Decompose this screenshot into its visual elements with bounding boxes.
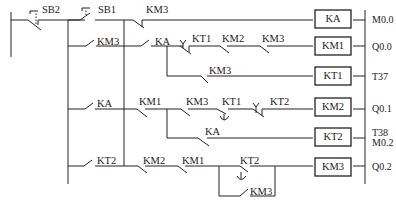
label-kt2-r6b: KT2 [240,156,259,167]
label-km3-r2b: KM3 [262,34,284,45]
label-ka-r4: KA [97,99,112,110]
coil-label-km3: KM3 [313,162,353,173]
kt1-nc-timed-contact-icon [180,40,191,54]
coil-label-kt1: KT1 [313,71,353,82]
label-km3-r6: KM3 [250,187,272,198]
coil-label-km2: KM2 [313,102,353,113]
address-m02: M0.2 [372,138,393,148]
label-km2-r2: KM2 [222,34,244,45]
label-kt2-r4: KT2 [270,97,289,108]
label-ka-r5: KA [205,127,220,138]
label-kt1-r2: KT1 [192,34,211,45]
kt2-no-timed-contact-icon [219,166,248,180]
label-kt1-r4: KT1 [222,97,241,108]
kt1-no-timed-contact-icon [217,109,229,120]
label-km3-r3: KM3 [209,66,231,77]
address-q01: Q0.1 [372,104,392,114]
kt2-nc-timed-contact-icon [253,103,264,117]
label-km3-r4: KM3 [186,97,208,108]
address-q00: Q0.0 [372,42,392,52]
label-sb2: SB2 [42,5,60,16]
label-kt2-r6: KT2 [97,156,116,167]
label-km3-r2a: KM3 [97,37,119,48]
coil-label-ka: KA [313,14,353,25]
label-km1-r4: KM1 [139,97,161,108]
address-m00: M0.0 [372,15,393,25]
sb1-no-pushbutton-icon [68,8,90,20]
label-km2-r6: KM2 [143,156,165,167]
label-km3-r1: KM3 [146,5,168,16]
coil-label-km1: KM1 [313,41,353,52]
address-t37: T37 [372,72,388,82]
address-q02: Q0.2 [372,162,392,172]
label-sb1: SB1 [98,5,116,16]
coil-label-kt2: KT2 [313,132,353,143]
label-ka-r2: KA [155,37,170,48]
label-km1-r6: KM1 [182,156,204,167]
km3-nc-contact-icon [133,20,144,28]
